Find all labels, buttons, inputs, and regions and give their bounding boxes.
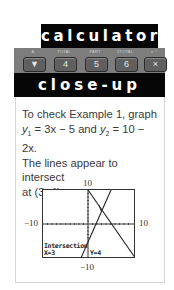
- key-4: 4: [54, 57, 77, 72]
- key-shift-label: A: [18, 49, 48, 54]
- key-6: 6: [115, 57, 138, 72]
- key-shift-label: ΣTOTAL: [110, 49, 140, 54]
- y-max-label: 10: [83, 178, 92, 188]
- text-line: To check Example 1, graph: [22, 108, 157, 120]
- key-shift-label: TOTAL: [49, 49, 79, 54]
- key-shift-label: PART: [80, 49, 110, 54]
- y-min-label: −10: [80, 262, 94, 272]
- down-arrow-key: ▼: [23, 57, 46, 72]
- close-up-banner: close-up: [14, 73, 165, 97]
- calculator-banner-title: calculator: [41, 24, 158, 48]
- calculator-key-strip: A ▼ TOTAL 4 PART 5 ΣTOTAL 6 x⁻¹ ×: [14, 48, 165, 73]
- y-value-readout: Y=4: [90, 250, 101, 256]
- key-5: 5: [85, 57, 108, 72]
- y1-equation: = 3x − 5 and: [32, 123, 100, 135]
- calculator-graph-screen: Intersection X=3 Y=4: [42, 189, 135, 258]
- x-value-readout: X=3: [44, 250, 55, 256]
- text-line: The lines appear to intersect: [22, 157, 118, 184]
- key-shift-label: x⁻¹: [139, 49, 169, 54]
- multiply-key: ×: [144, 57, 167, 72]
- x-min-label: −10: [24, 218, 38, 228]
- instruction-paragraph: To check Example 1, graph y1 = 3x − 5 an…: [22, 107, 162, 199]
- x-max-label: 10: [139, 218, 148, 228]
